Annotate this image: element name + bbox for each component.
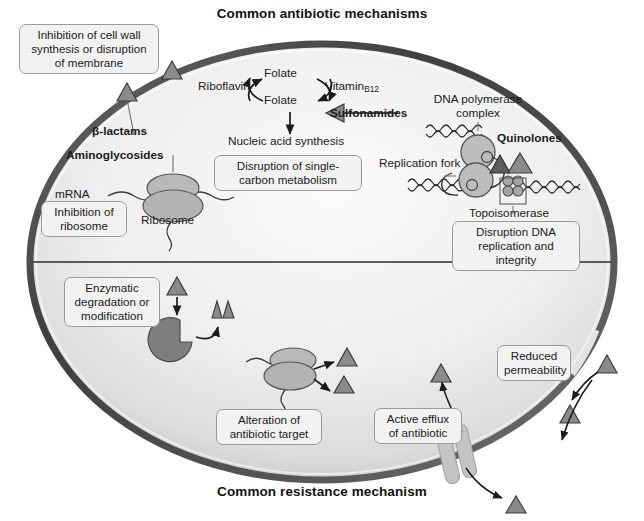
label-mrna: mRNA — [55, 187, 90, 201]
page-footer-caption: Common resistance mechanism — [0, 484, 644, 499]
label-quinolones: Quinolones — [497, 131, 562, 145]
callout-ribosome-inhibition: Inhibition of ribosome — [41, 201, 127, 237]
diagram-canvas: Common antibiotic mechanisms Common resi… — [0, 0, 644, 521]
label-folate-bottom: Folate — [264, 93, 297, 107]
label-folate-top: Folate — [264, 66, 297, 80]
label-vitamin-text: Vitamin — [325, 79, 364, 93]
label-nucleic-acid-synthesis: Nucleic acid synthesis — [228, 134, 344, 148]
label-riboflavin: Riboflavin — [198, 79, 250, 93]
label-sulfonamides: Sulfonamides — [330, 106, 407, 120]
label-beta-lactams: β-lactams — [92, 124, 147, 138]
label-ribosome: Ribosome — [141, 213, 194, 227]
blocked-antibiotic-deflected — [560, 405, 580, 423]
label-topoisomerase: Topoisomerase — [469, 206, 549, 220]
callout-cell-wall-inhibition: Inhibition of cell wall synthesis or dis… — [19, 24, 159, 74]
callout-target-alteration: Alteration of antibiotic target — [216, 409, 322, 445]
altered-ribosome-large — [264, 362, 316, 390]
callout-active-efflux: Active efflux of antibiotic — [374, 408, 462, 444]
callout-single-carbon-metabolism: Disruption of single-carbon metabolism — [214, 155, 362, 191]
blocked-entry-arrow-1 — [572, 372, 598, 400]
callout-reduced-permeability: Reduced permeability — [497, 345, 571, 381]
label-vitamin-b12: VitaminB12 — [325, 79, 379, 94]
label-vitamin-subscript: B12 — [364, 84, 379, 94]
blocked-entry-arrow-2 — [562, 380, 592, 440]
blocked-antibiotic-outside — [597, 355, 617, 373]
dna-polymerase-subunit-2 — [459, 163, 493, 197]
label-replication-fork: Replication fork — [379, 156, 460, 170]
page-title: Common antibiotic mechanisms — [0, 6, 644, 21]
label-dna-polymerase-complex: DNA polymerase complex — [430, 92, 526, 120]
callout-dna-disruption: Disruption DNA replication and integrity — [452, 221, 580, 271]
label-aminoglycosides: Aminoglycosides — [66, 148, 164, 162]
callout-enzymatic-degradation: Enzymatic degradation or modification — [64, 277, 160, 327]
